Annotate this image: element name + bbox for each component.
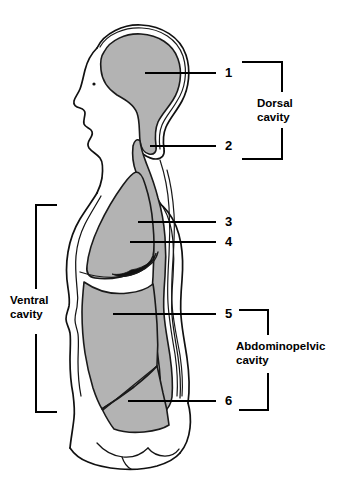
dorsal-cavity-label: Dorsal cavity: [255, 95, 295, 126]
eye-dot: [92, 82, 95, 85]
dorsal-cavity-label-line2: cavity: [257, 110, 293, 124]
gluteal-fold-detail: [97, 443, 148, 457]
ventral-cavity-label-line2: cavity: [10, 307, 48, 321]
cranial-cavity-region: [101, 34, 181, 154]
number-label-5: 5: [225, 307, 232, 320]
number-label-4: 4: [225, 235, 232, 248]
thoracic-cavity-region: [87, 172, 154, 279]
dorsal-cavity-label-line1: Dorsal: [257, 96, 293, 110]
ventral-cavity-label: Ventral cavity: [8, 292, 50, 323]
number-label-1: 1: [225, 66, 232, 79]
buttock-lower-back: [180, 403, 190, 453]
number-label-3: 3: [225, 215, 232, 228]
abdominopelvic-cavity-label-line2: cavity: [236, 353, 325, 367]
anatomy-figure: 1 2 3 4 5 6 Dorsal cavity Ventral cavity…: [0, 0, 343, 488]
number-label-2: 2: [225, 139, 232, 152]
ventral-cavity-label-line1: Ventral: [10, 293, 48, 307]
number-label-6: 6: [225, 394, 232, 407]
abdominopelvic-cavity-label: Abdominopelvic cavity: [234, 338, 327, 369]
pelvic-floor-detail: [148, 448, 179, 456]
pelvis-hip-outline: [70, 448, 180, 469]
hip-crease-detail: [122, 457, 131, 469]
face-profile: [74, 48, 103, 193]
body-cavity-illustration: [0, 0, 343, 488]
abdominopelvic-cavity-label-line1: Abdominopelvic: [236, 339, 325, 353]
